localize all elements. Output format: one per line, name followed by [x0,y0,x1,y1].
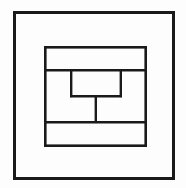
diagram-canvas [0,0,186,188]
line-diagram-svg [0,0,186,188]
